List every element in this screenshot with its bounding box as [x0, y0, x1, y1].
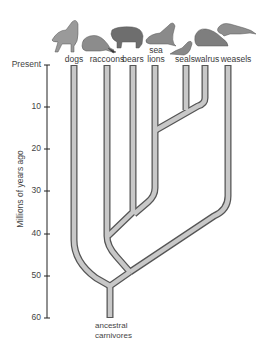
root-label-line1: ancestral — [95, 321, 127, 331]
weasel-illustration-icon — [218, 24, 257, 37]
taxon-label-dogs: dogs — [65, 55, 83, 64]
dog-illustration-icon — [52, 20, 78, 52]
raccoon-illustration-icon — [82, 36, 116, 54]
taxon-label-bears: bears — [122, 55, 143, 64]
tree-branches — [74, 65, 228, 318]
tick-label-50: 50 — [11, 271, 41, 280]
phylogeny-figure: dogs raccoons bears sea lions seals walr… — [0, 0, 270, 353]
tick-label-10: 10 — [11, 102, 41, 111]
tick-label-present: Present — [11, 60, 41, 69]
bear-illustration-icon — [111, 27, 143, 48]
taxon-label-walrus: walrus — [195, 55, 220, 64]
root-label-line2: carnivores — [95, 331, 132, 341]
taxon-label-raccoons: raccoons — [90, 55, 125, 64]
tree-canvas — [0, 0, 270, 353]
sea-lion-illustration-icon — [146, 23, 176, 46]
taxon-label-sea-lions-line2: lions — [147, 55, 164, 64]
tick-label-60: 60 — [11, 313, 41, 322]
y-axis-title: Millions of years ago — [15, 144, 25, 234]
taxon-label-seals: seals — [175, 55, 195, 64]
taxon-label-weasels: weasels — [221, 55, 252, 64]
y-axis — [44, 65, 50, 318]
